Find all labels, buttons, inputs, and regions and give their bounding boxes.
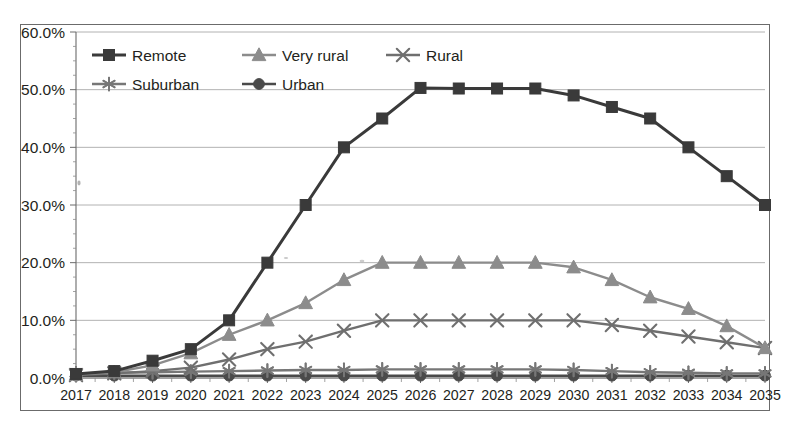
data-point-square-marker	[185, 344, 196, 355]
x-tick-label: 2024	[328, 387, 360, 403]
y-tick-label: 60.0%	[21, 24, 65, 41]
series-group	[69, 82, 772, 381]
x-tick-label: 2018	[98, 387, 130, 403]
data-point-triangle-marker	[337, 273, 351, 286]
x-tick-label: 2026	[405, 387, 437, 403]
data-point-square-marker	[606, 101, 617, 112]
data-point-square-marker	[568, 90, 579, 101]
data-point-triangle-marker	[720, 319, 734, 332]
series-line	[76, 263, 765, 375]
data-point-square-marker	[645, 113, 656, 124]
x-tick-label: 2017	[60, 387, 92, 403]
legend-item-very-rural[interactable]: Very rural	[242, 47, 348, 64]
data-point-square-marker	[530, 83, 541, 94]
data-point-square-marker	[104, 50, 115, 61]
legend-item-rural[interactable]: Rural	[386, 47, 463, 64]
x-tick-label: 2020	[175, 387, 207, 403]
x-tick-label: 2022	[252, 387, 284, 403]
data-point-square-marker	[338, 142, 349, 153]
y-tick-label: 0.0%	[30, 370, 66, 387]
x-tick-label: 2027	[443, 387, 475, 403]
data-point-square-marker	[300, 200, 311, 211]
data-point-square-marker	[377, 113, 388, 124]
legend-label: Rural	[426, 47, 463, 64]
series-line	[76, 88, 765, 374]
series-remote	[71, 82, 771, 379]
data-point-square-marker	[721, 171, 732, 182]
data-point-square-marker	[492, 83, 503, 94]
x-tick-label: 2032	[634, 387, 666, 403]
y-tick-label: 10.0%	[21, 312, 65, 329]
x-tick-label: 2034	[711, 387, 743, 403]
data-point-square-marker	[224, 315, 235, 326]
series-very-rural	[69, 255, 772, 380]
y-tick-label: 50.0%	[21, 81, 65, 98]
data-point-square-marker	[262, 257, 273, 268]
legend-label: Very rural	[282, 47, 348, 64]
x-tick-label: 2023	[290, 387, 322, 403]
data-point-square-marker	[109, 366, 120, 377]
data-point-square-marker	[415, 82, 426, 93]
x-tick-label: 2029	[520, 387, 552, 403]
x-tick-label: 2035	[749, 387, 781, 403]
legend-item-remote[interactable]: Remote	[92, 47, 186, 64]
data-point-square-marker	[453, 83, 464, 94]
legend-label: Suburban	[132, 76, 199, 93]
x-tick-label: 2019	[137, 387, 169, 403]
legend-label: Remote	[132, 47, 186, 64]
x-tick-label: 2030	[558, 387, 590, 403]
y-tick-label: 20.0%	[21, 254, 65, 271]
data-point-triangle-marker	[261, 313, 275, 326]
y-tick-label: 40.0%	[21, 139, 65, 156]
x-tick-label: 2025	[366, 387, 398, 403]
chart-canvas: 0.0%10.0%20.0%30.0%40.0%50.0%60.0% 20172…	[0, 0, 798, 445]
chart-container: 0.0%10.0%20.0%30.0%40.0%50.0%60.0% 20172…	[0, 0, 798, 445]
scan-artifacts	[77, 181, 364, 263]
x-tick-label: 2021	[213, 387, 245, 403]
legend-label: Urban	[282, 76, 324, 93]
data-point-square-marker	[760, 200, 771, 211]
y-axis-group: 0.0%10.0%20.0%30.0%40.0%50.0%60.0%	[21, 24, 76, 387]
legend-item-suburban[interactable]: Suburban	[92, 76, 199, 93]
legend-group: RemoteVery ruralRuralSuburbanUrban	[92, 47, 463, 93]
x-axis-group: 2017201820192020202120222023202420252026…	[60, 378, 781, 403]
x-tick-label: 2031	[596, 387, 628, 403]
data-point-triangle-marker	[643, 290, 657, 303]
data-point-square-marker	[71, 368, 82, 379]
x-tick-label: 2028	[481, 387, 513, 403]
data-point-square-marker	[683, 142, 694, 153]
data-point-circle-marker	[254, 79, 265, 90]
legend-item-urban[interactable]: Urban	[242, 76, 324, 93]
x-tick-label: 2033	[673, 387, 705, 403]
y-tick-label: 30.0%	[21, 197, 65, 214]
data-point-square-marker	[147, 355, 158, 366]
data-point-triangle-marker	[299, 296, 313, 309]
